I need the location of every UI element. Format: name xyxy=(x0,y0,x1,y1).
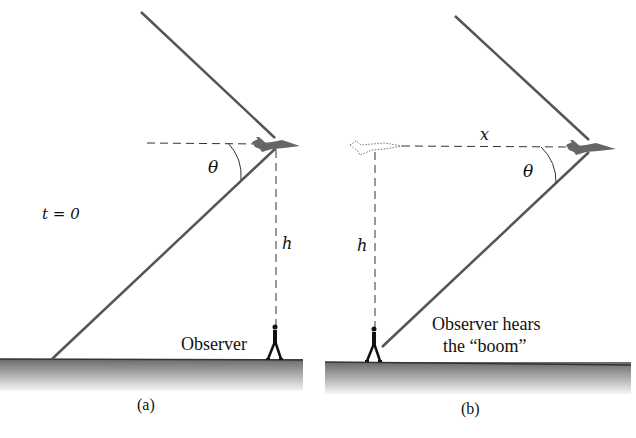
time-label: t = 0 xyxy=(42,205,80,223)
observer-label-a: Observer xyxy=(181,334,247,354)
flight-path-dashed-b xyxy=(402,146,574,147)
caption-a: (a) xyxy=(137,396,155,414)
shock-front-upper-b xyxy=(455,16,589,140)
observer-person-icon xyxy=(266,325,283,360)
caption-b: (b) xyxy=(461,400,480,418)
ground-b xyxy=(325,362,631,394)
ground-a xyxy=(0,359,303,391)
panel-a: θ h t = 0 Observer (a) xyxy=(0,12,303,414)
ground-surface-a xyxy=(0,359,303,360)
height-label-a: h xyxy=(282,234,292,253)
ghost-aircraft-icon xyxy=(350,141,402,155)
flight-path-dashed-a xyxy=(147,143,262,144)
distance-label: x xyxy=(480,125,489,144)
aircraft-icon-b xyxy=(566,140,616,155)
observer-label-b-line1: Observer hears xyxy=(432,314,540,334)
angle-arc-b xyxy=(541,147,556,183)
panel-b: x θ h Observer hears the “boom” (b) xyxy=(325,16,631,418)
angle-label-a: θ xyxy=(208,157,218,177)
angle-arc-a xyxy=(228,143,241,180)
observer-label-b-line2: the “boom” xyxy=(443,336,526,356)
angle-label-b: θ xyxy=(523,161,533,181)
sonic-boom-diagram: θ h t = 0 Observer (a) xyxy=(0,0,636,438)
shock-front-upper-a xyxy=(141,12,275,138)
aircraft-icon xyxy=(252,137,300,152)
observer-person-icon-b xyxy=(365,327,382,362)
shock-front-lower-a xyxy=(52,148,276,359)
height-label-b: h xyxy=(357,236,367,255)
